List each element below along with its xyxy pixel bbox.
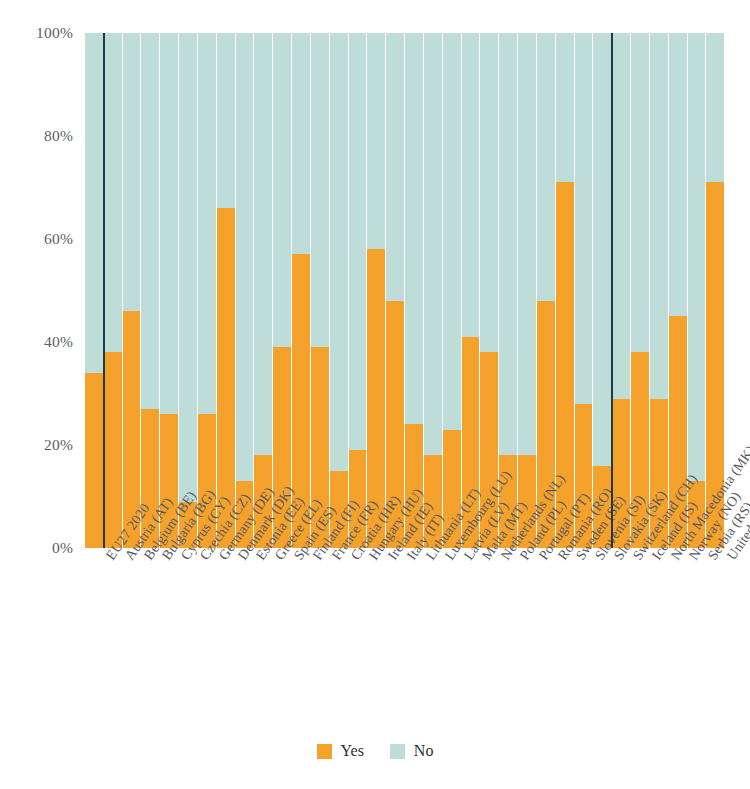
bar-segment-no[interactable] [669, 33, 687, 316]
bar-segment-no[interactable] [518, 33, 536, 455]
bar-segment-no[interactable] [123, 33, 141, 311]
bar-segment-yes[interactable] [104, 352, 122, 548]
y-axis-tick-40: 40% [44, 333, 73, 351]
bar-segment-no[interactable] [631, 33, 649, 352]
bar-segment-no[interactable] [424, 33, 442, 455]
bar-segment-no[interactable] [537, 33, 555, 301]
x-axis-tick-label: Estonia (EE) [253, 554, 266, 563]
bar-segment-no[interactable] [706, 33, 724, 182]
x-axis-tick-label: Italy (IT) [404, 554, 417, 563]
bar-segment-no[interactable] [688, 33, 706, 481]
x-axis-tick-label: Lithuania (LT) [423, 554, 436, 563]
bar-segment-no[interactable] [273, 33, 291, 347]
bar-column[interactable] [593, 33, 612, 548]
bar-column[interactable] [518, 33, 537, 548]
plot-area [85, 33, 725, 548]
bar-column[interactable] [349, 33, 368, 548]
bar-column[interactable] [85, 33, 104, 548]
x-axis-tick-label: Malta (MT) [479, 554, 492, 563]
bar-column[interactable] [480, 33, 499, 548]
bar-column[interactable] [556, 33, 575, 548]
bar-column[interactable] [386, 33, 405, 548]
bar-segment-no[interactable] [462, 33, 480, 337]
x-axis-tick-label: Slovakia (SK) [611, 554, 624, 563]
bar-segment-no[interactable] [405, 33, 423, 424]
bar-segment-no[interactable] [443, 33, 461, 430]
bar-column[interactable] [688, 33, 707, 548]
y-axis-tick-20: 20% [44, 436, 73, 454]
x-axis-tick-label: Romania (RO) [555, 554, 568, 563]
bar-segment-no[interactable] [236, 33, 254, 481]
legend-swatch-icon [317, 744, 332, 759]
bar-segment-no[interactable] [85, 33, 103, 373]
bar-column[interactable] [311, 33, 330, 548]
bar-segment-no[interactable] [480, 33, 498, 352]
bar-segment-no[interactable] [593, 33, 611, 466]
bar-column[interactable] [443, 33, 462, 548]
x-axis-tick-label: Serbia (RS) [705, 554, 718, 563]
x-axis-tick-label: Iceland (IS) [649, 554, 662, 563]
bar-segment-no[interactable] [141, 33, 159, 409]
bar-segment-no[interactable] [179, 33, 197, 502]
bar-segment-no[interactable] [386, 33, 404, 301]
bar-column[interactable] [254, 33, 273, 548]
legend-item[interactable]: No [390, 742, 434, 760]
x-axis-tick-label: Bulgaria (BG) [159, 554, 172, 563]
bar-segment-no[interactable] [217, 33, 235, 208]
x-axis-tick-label: North Macedonia (MK) [668, 554, 681, 563]
bar-column[interactable] [292, 33, 311, 548]
bar-segment-no[interactable] [160, 33, 178, 414]
bar-column[interactable] [537, 33, 556, 548]
legend-swatch-icon [390, 744, 405, 759]
bar-column[interactable] [575, 33, 594, 548]
bar-segment-no[interactable] [330, 33, 348, 471]
x-axis-tick-label: Sweden (SE) [573, 554, 586, 563]
y-axis: 0%20%40%60%80%100% [0, 0, 85, 581]
x-axis-tick-label: EU27 2020 [103, 554, 116, 563]
bar-segment-no[interactable] [349, 33, 367, 450]
bar-column[interactable] [612, 33, 631, 548]
bar-column[interactable] [160, 33, 179, 548]
legend-label: No [414, 742, 434, 760]
stacked-bar-chart: 0%20%40%60%80%100% EU27 2020Austria (AT)… [0, 0, 750, 789]
bar-segment-no[interactable] [499, 33, 517, 455]
legend-item[interactable]: Yes [317, 742, 364, 760]
bar-column[interactable] [123, 33, 142, 548]
x-axis-tick-label: Belgium (BE) [141, 554, 154, 563]
bar-column[interactable] [462, 33, 481, 548]
bar-segment-no[interactable] [198, 33, 216, 414]
bar-column[interactable] [669, 33, 688, 548]
x-axis-tick-label: Austria (AT) [122, 554, 135, 563]
bar-segment-no[interactable] [650, 33, 668, 399]
bar-column[interactable] [330, 33, 349, 548]
x-axis-tick-label: Spain (ES) [291, 554, 304, 563]
bar-segment-no[interactable] [254, 33, 272, 455]
bar-segment-no[interactable] [575, 33, 593, 404]
bar-segment-no[interactable] [104, 33, 122, 352]
y-axis-tick-0: 0% [52, 539, 73, 557]
bar-column[interactable] [706, 33, 725, 548]
bar-segment-no[interactable] [556, 33, 574, 182]
bar-column[interactable] [104, 33, 123, 548]
x-axis-tick-label: Cyprus (CY) [178, 554, 191, 563]
bar-column[interactable] [273, 33, 292, 548]
bar-column[interactable] [236, 33, 255, 548]
bar-column[interactable] [179, 33, 198, 548]
bar-column[interactable] [424, 33, 443, 548]
x-axis-tick-label: United Kingdom (UK) [724, 554, 737, 563]
bar-segment-no[interactable] [311, 33, 329, 347]
bar-column[interactable] [405, 33, 424, 548]
x-axis-tick-label: Poland (PL) [517, 554, 530, 563]
bar-column[interactable] [650, 33, 669, 548]
x-axis-tick-label: Germany (DE) [216, 554, 229, 563]
x-axis: EU27 2020Austria (AT)Belgium (BE)Bulgari… [85, 548, 725, 728]
bar-column[interactable] [198, 33, 217, 548]
bar-column[interactable] [141, 33, 160, 548]
bar-column[interactable] [367, 33, 386, 548]
bar-column[interactable] [217, 33, 236, 548]
bar-segment-no[interactable] [612, 33, 630, 399]
bar-segment-yes[interactable] [85, 373, 103, 548]
bar-segment-no[interactable] [367, 33, 385, 249]
bar-column[interactable] [631, 33, 650, 548]
bar-segment-no[interactable] [292, 33, 310, 254]
